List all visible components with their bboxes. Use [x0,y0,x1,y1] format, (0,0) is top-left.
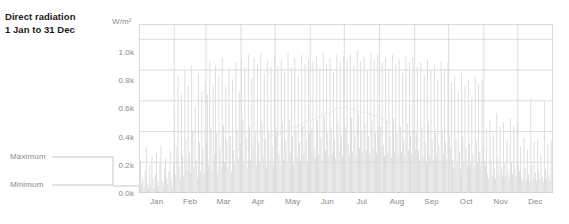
legend-label-minimum: Minimum [10,180,44,189]
chart-plot-area [139,24,553,193]
x-axis-tick-labels: JanFebMarAprMayJunJulAugSepOctNovDec [139,197,553,213]
x-tick-jul: Jul [342,197,382,206]
y-tick-800: 0.8k [104,76,134,85]
chart-title-block: Direct radiation 1 Jan to 31 Dec [5,11,75,36]
x-tick-dec: Dec [515,197,555,206]
y-tick-1000: 1.0k [104,48,134,57]
legend-label-maximum: Maximum [10,152,46,161]
maximum-bars [139,50,553,193]
y-tick-0: 0.0k [104,189,134,198]
y-tick-600: 0.6k [104,104,134,113]
radiation-plot [139,24,553,193]
page-title: Direct radiation [5,11,75,24]
y-tick-400: 0.4k [104,133,134,142]
y-axis-tick-labels: 1.0k 0.8k 0.6k 0.4k 0.2k 0.0k [101,0,134,224]
y-tick-200: 0.2k [104,161,134,170]
chart-subtitle: 1 Jan to 31 Dec [5,24,75,37]
